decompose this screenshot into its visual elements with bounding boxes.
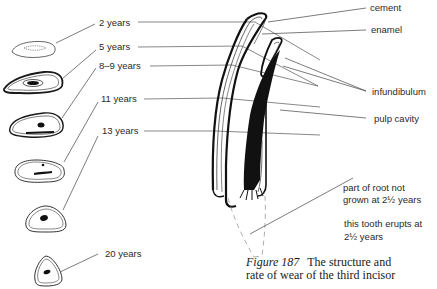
note-erupt-line2: 2½ years bbox=[344, 231, 383, 242]
cross-section-20-years bbox=[35, 256, 62, 286]
label-pulp-cavity: pulp cavity bbox=[374, 113, 419, 124]
caption-line1: The structure and bbox=[307, 255, 391, 269]
label-age-11-years: 11 years bbox=[101, 93, 137, 104]
note-root-line1: part of root not bbox=[343, 182, 405, 193]
tooth-longitudinal-section bbox=[213, 13, 282, 207]
label-age-20-years: 20 years bbox=[105, 248, 141, 259]
dashed-root-outline bbox=[228, 196, 265, 257]
note-root-line2: grown at 2½ years bbox=[343, 194, 421, 205]
cross-section-13-years bbox=[26, 206, 66, 232]
label-infundibulum: infundibulum bbox=[372, 86, 426, 97]
diagram-artwork bbox=[0, 0, 437, 289]
caption-line2: rate of wear of the third incisor bbox=[246, 269, 395, 282]
cross-section-8-9-years bbox=[10, 113, 63, 137]
age-leaders bbox=[56, 24, 98, 272]
note-erupt-line1: this tooth erupts at bbox=[344, 218, 422, 229]
cross-section-5-years bbox=[4, 72, 63, 93]
figure-number: Figure 187 bbox=[246, 255, 299, 269]
label-age-2-years: 2 years bbox=[99, 17, 130, 28]
cross-section-2-years bbox=[12, 41, 55, 57]
label-cement: cement bbox=[370, 2, 401, 13]
label-enamel: enamel bbox=[371, 24, 402, 35]
label-age-5-years: 5 years bbox=[99, 41, 130, 52]
label-age-13-years: 13 years bbox=[102, 125, 138, 136]
incisor-wear-diagram: 2 years 5 years 8–9 years 11 years 13 ye… bbox=[0, 0, 437, 289]
figure-caption: Figure 187The structure and rate of wear… bbox=[246, 256, 395, 282]
label-age-8-9-years: 8–9 years bbox=[99, 60, 141, 71]
cross-section-11-years bbox=[15, 160, 64, 182]
